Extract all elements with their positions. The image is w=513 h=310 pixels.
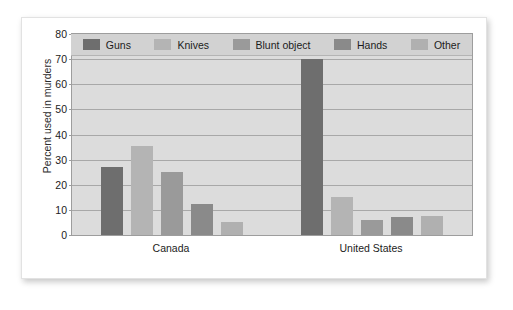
y-axis-tick-mark [69, 185, 72, 186]
legend-label: Hands [357, 39, 387, 51]
gridline [72, 59, 472, 60]
y-axis-tick-mark [69, 135, 72, 136]
y-axis-tick-mark [69, 235, 72, 236]
legend-label: Other [434, 39, 460, 51]
y-axis-tick-mark [69, 59, 72, 60]
bar-blunt-object-united-states [361, 220, 383, 235]
gridline [72, 84, 472, 85]
bar-guns-canada [101, 167, 123, 235]
y-axis-tick-label: 60 [55, 78, 67, 90]
legend-swatch-icon [411, 39, 428, 50]
x-axis-group-label: Canada [153, 242, 190, 254]
y-axis-tick-mark [69, 160, 72, 161]
legend-label: Blunt object [256, 39, 311, 51]
y-axis-tick-label: 30 [55, 154, 67, 166]
y-axis-tick-label: 20 [55, 179, 67, 191]
bar-knives-canada [131, 146, 153, 235]
legend-swatch-icon [233, 39, 250, 50]
gridline [72, 109, 472, 110]
chart-card: Percent used in murders 0102030405060708… [21, 17, 487, 279]
bar-knives-united-states [331, 197, 353, 235]
legend-label: Guns [106, 39, 131, 51]
y-axis-title: Percent used in murders [41, 21, 53, 211]
y-axis-tick-label: 70 [55, 53, 67, 65]
legend-swatch-icon [154, 39, 171, 50]
legend-item-other: Other [411, 39, 460, 51]
y-axis-tick-label: 0 [61, 229, 67, 241]
plot-area: 01020304050607080 [71, 33, 473, 236]
legend-swatch-icon [83, 39, 100, 50]
gridline [72, 135, 472, 136]
bar-hands-united-states [391, 217, 413, 235]
bar-hands-canada [191, 204, 213, 235]
legend-swatch-icon [334, 39, 351, 50]
legend-item-blunt-object: Blunt object [233, 39, 311, 51]
bar-blunt-object-canada [161, 172, 183, 235]
y-axis-tick-label: 40 [55, 129, 67, 141]
bar-guns-united-states [301, 59, 323, 235]
y-axis-tick-label: 80 [55, 28, 67, 40]
chart-legend: GunsKnivesBlunt objectHandsOther [71, 34, 472, 56]
x-axis-group-label: United States [339, 242, 402, 254]
legend-label: Knives [177, 39, 209, 51]
y-axis-tick-mark [69, 109, 72, 110]
y-axis-tick-mark [69, 210, 72, 211]
bar-other-united-states [421, 216, 443, 235]
y-axis-tick-label: 10 [55, 204, 67, 216]
legend-item-guns: Guns [83, 39, 131, 51]
legend-item-knives: Knives [154, 39, 209, 51]
legend-item-hands: Hands [334, 39, 387, 51]
y-axis-tick-label: 50 [55, 103, 67, 115]
y-axis-tick-mark [69, 84, 72, 85]
bar-other-canada [221, 222, 243, 235]
